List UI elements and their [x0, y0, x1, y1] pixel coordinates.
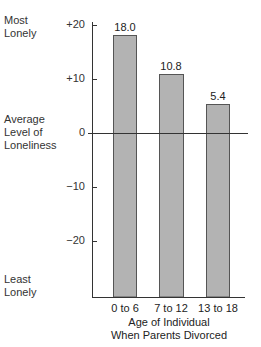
- x-category-label: 0 to 6: [100, 302, 150, 314]
- x-axis-title-line-1: Age of Individual: [99, 316, 239, 329]
- bar-value-label: 18.0: [105, 21, 145, 33]
- bar-value-label: 10.8: [151, 60, 191, 72]
- x-axis-title-line-2: When Parents Divorced: [99, 329, 239, 342]
- bar-7-to-12: [160, 75, 184, 298]
- x-category-label: 13 to 18: [193, 302, 243, 314]
- bar-value-label: 5.4: [198, 90, 238, 102]
- x-category-label: 7 to 12: [146, 302, 196, 314]
- x-axis-title: Age of Individual When Parents Divorced: [99, 316, 239, 342]
- plot-area: [0, 0, 261, 347]
- bar-0-to-6: [114, 36, 137, 298]
